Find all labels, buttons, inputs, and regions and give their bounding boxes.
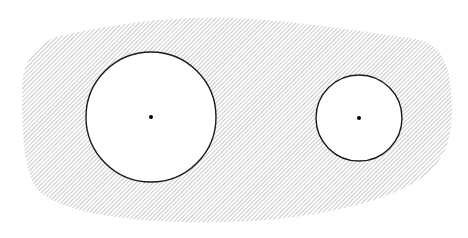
center-point-small	[357, 116, 361, 120]
hole-small	[316, 75, 402, 161]
center-point-large	[149, 115, 153, 119]
hole-large	[86, 52, 216, 182]
diagram-canvas	[0, 0, 468, 238]
hatched-plate-diagram	[0, 0, 468, 238]
